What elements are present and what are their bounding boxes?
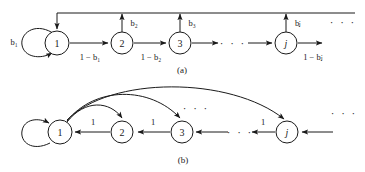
node-3-label-b: 3 (180, 127, 185, 138)
panel-a: 1 2 3 j b₁ b₂ b₃ bⱼ 1 − b₁ 1 − b₂ 1 − bⱼ… (10, 13, 356, 75)
ellipsis-chain-a: · · · (220, 37, 247, 49)
node-2-label-b: 2 (120, 127, 125, 138)
ellipsis-right-b: · · · (331, 107, 358, 119)
label-1-minus-b2-a: 1 − b₂ (141, 52, 162, 62)
node-3-label-a: 3 (178, 38, 183, 49)
ellipsis-arcs-b: · · · (183, 102, 210, 114)
label-one-j-b: 1 (261, 117, 265, 127)
label-b3-a: b₃ (188, 18, 195, 28)
caption-a: (a) (177, 65, 187, 75)
ellipsis-chain-b: · · · (227, 126, 254, 138)
label-one-3-to-2-b: 1 (151, 117, 155, 127)
ellipsis-right-a: · · · (330, 16, 357, 28)
panel-b: 1 2 3 j 1 1 1 · · · · · · · · · (b) (22, 87, 357, 165)
node-1-label-a: 1 (55, 38, 60, 49)
label-b2-a: b₂ (130, 18, 137, 28)
label-1-minus-b1-a: 1 − b₁ (80, 52, 101, 62)
node-2-label-a: 2 (120, 38, 125, 49)
label-one-2-to-1-b: 1 (91, 117, 95, 127)
label-b1-a: b₁ (10, 37, 17, 47)
self-loop-node1-b (22, 120, 50, 147)
state-transition-diagram: 1 2 3 j b₁ b₂ b₃ bⱼ 1 − b₁ 1 − b₂ 1 − bⱼ… (0, 0, 365, 172)
caption-b: (b) (178, 155, 189, 165)
figure-container: 1 2 3 j b₁ b₂ b₃ bⱼ 1 − b₁ 1 − b₂ 1 − bⱼ… (0, 0, 365, 172)
return-arc-1-to-j-b (67, 87, 284, 120)
node-1-label-b: 1 (58, 127, 63, 138)
label-1-minus-bj-a: 1 − bⱼ (303, 52, 323, 62)
label-bj-a: bⱼ (295, 18, 301, 28)
